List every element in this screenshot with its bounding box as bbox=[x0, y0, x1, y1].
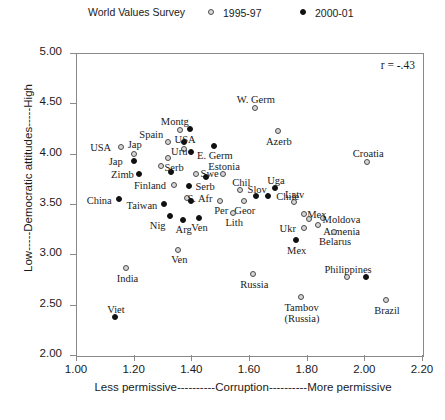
data-point-label: Uga bbox=[267, 175, 285, 186]
scatter-chart-figure: World Values Survey 1995-97 2000-01 r = … bbox=[0, 0, 445, 420]
data-point bbox=[293, 237, 299, 243]
x-axis-tick-label: 2.20 bbox=[399, 363, 445, 375]
data-point bbox=[131, 151, 137, 157]
data-point-label: Ven bbox=[191, 222, 207, 233]
data-point bbox=[180, 217, 186, 223]
data-point bbox=[364, 159, 370, 165]
data-point-label: Arg bbox=[176, 224, 192, 235]
data-point bbox=[250, 271, 256, 277]
open-circle-icon bbox=[208, 9, 214, 15]
x-axis-tick bbox=[307, 355, 308, 361]
data-point bbox=[177, 127, 183, 133]
data-point bbox=[158, 163, 164, 169]
x-axis-tick bbox=[249, 355, 250, 361]
data-point bbox=[275, 128, 281, 134]
data-point bbox=[118, 144, 124, 150]
legend-entry-2000-01: 2000-01 bbox=[300, 6, 354, 19]
data-point bbox=[203, 174, 209, 180]
data-point bbox=[188, 149, 194, 155]
data-point-label: Belarus bbox=[319, 236, 351, 247]
y-axis-tick bbox=[70, 154, 76, 155]
data-point-label: Slov bbox=[248, 184, 267, 195]
x-axis-tick bbox=[134, 355, 135, 361]
legend-label-1995-97: 1995-97 bbox=[223, 7, 262, 19]
y-axis-tick-label: 2.00 bbox=[22, 347, 62, 359]
data-point bbox=[171, 182, 177, 188]
data-point-label: Croatia bbox=[353, 148, 384, 159]
data-point-label: W. Germ bbox=[237, 94, 275, 105]
x-axis-tick-label: 1.00 bbox=[53, 363, 99, 375]
data-point bbox=[161, 201, 167, 207]
x-axis-tick bbox=[422, 355, 423, 361]
data-point bbox=[301, 225, 307, 231]
data-point-label: India bbox=[117, 273, 139, 284]
data-point bbox=[181, 139, 187, 145]
y-axis-tick bbox=[70, 53, 76, 54]
data-point-label: Tambov(Russia) bbox=[284, 302, 319, 324]
data-point-label: Geor bbox=[234, 205, 255, 216]
x-axis-tick bbox=[76, 355, 77, 361]
data-point bbox=[186, 183, 192, 189]
x-axis-tick-label: 1.60 bbox=[226, 363, 272, 375]
data-point-label: Per bbox=[214, 205, 228, 216]
x-axis-tick-label: 1.40 bbox=[168, 363, 214, 375]
filled-circle-icon bbox=[300, 9, 306, 15]
plot-area: USAJapSpainUSAMontgUruW. GermAzerbCroati… bbox=[76, 53, 422, 355]
data-point-label: Nig bbox=[150, 220, 166, 231]
legend-label-2000-01: 2000-01 bbox=[315, 7, 354, 19]
data-point bbox=[252, 105, 258, 111]
data-point-label: Brazil bbox=[374, 305, 400, 316]
data-point-label: Viet bbox=[107, 304, 124, 315]
data-point bbox=[167, 213, 173, 219]
data-point bbox=[265, 193, 271, 199]
data-point bbox=[298, 294, 304, 300]
y-axis-tick bbox=[70, 103, 76, 104]
data-point-label: USA bbox=[90, 142, 111, 153]
data-point bbox=[131, 158, 137, 164]
data-point-label: Jap bbox=[109, 156, 123, 167]
data-point-label: Finland bbox=[134, 180, 166, 191]
y-axis-tick bbox=[70, 254, 76, 255]
data-point bbox=[211, 143, 217, 149]
y-axis-tick bbox=[70, 204, 76, 205]
data-point bbox=[193, 171, 199, 177]
data-point-label: Jap bbox=[128, 139, 142, 150]
data-point-label: Azerb bbox=[266, 136, 292, 147]
data-point bbox=[168, 169, 174, 175]
data-point bbox=[123, 265, 129, 271]
data-point-label: Ven bbox=[171, 254, 187, 265]
x-axis-title: Less permissive----------Corruption-----… bbox=[48, 381, 438, 393]
data-point bbox=[175, 247, 181, 253]
data-point-label: Lith bbox=[225, 217, 243, 228]
x-axis-tick-label: 1.80 bbox=[284, 363, 330, 375]
data-point bbox=[165, 139, 171, 145]
data-point-label: Chile bbox=[276, 191, 299, 202]
data-point bbox=[136, 171, 142, 177]
y-axis-tick bbox=[70, 305, 76, 306]
data-point-label: Uru bbox=[171, 146, 187, 157]
data-point bbox=[217, 198, 223, 204]
data-point bbox=[241, 198, 247, 204]
data-point-label: Russia bbox=[240, 279, 268, 290]
data-point bbox=[196, 215, 202, 221]
data-point bbox=[363, 274, 369, 280]
data-point-label: Moldova bbox=[323, 214, 361, 225]
data-point-label: China bbox=[87, 195, 112, 206]
data-point-label: Serb bbox=[195, 181, 214, 192]
data-point bbox=[383, 297, 389, 303]
data-point bbox=[315, 222, 321, 228]
data-point-label: Mex bbox=[287, 245, 306, 256]
data-point-label: Montg bbox=[161, 116, 189, 127]
x-axis-tick-label: 1.20 bbox=[111, 363, 157, 375]
data-point bbox=[116, 196, 122, 202]
data-point-label: Ukr bbox=[280, 223, 296, 234]
data-point-label: Estonia bbox=[208, 161, 240, 172]
data-point-label: E. Germ bbox=[197, 150, 233, 161]
y-axis-title: Low-----Democratic attitudes-----High bbox=[22, 48, 34, 308]
legend-entry-1995-97: 1995-97 bbox=[208, 6, 262, 19]
data-point bbox=[306, 216, 312, 222]
legend-title: World Values Survey bbox=[88, 6, 185, 18]
x-axis-tick bbox=[191, 355, 192, 361]
data-point-label: Taiwan bbox=[127, 200, 158, 211]
x-axis-tick bbox=[364, 355, 365, 361]
